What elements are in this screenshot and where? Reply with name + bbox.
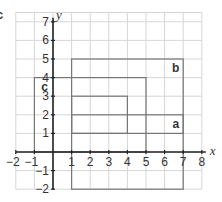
x-axis-label: x: [209, 143, 216, 158]
x-tick-label: 6: [161, 155, 168, 169]
shape-label-b: b: [172, 61, 179, 75]
coordinate-plane: −2−112345678−2−11234567xybca: [0, 0, 222, 202]
shape-label-c: c: [41, 80, 48, 94]
y-tick-label: −2: [35, 182, 49, 196]
y-tick-label: 1: [42, 126, 49, 140]
y-tick-label: −1: [35, 164, 49, 178]
y-tick-label: 2: [42, 108, 49, 122]
x-tick-label: 8: [198, 155, 205, 169]
y-tick-label: 6: [42, 33, 49, 47]
y-axis-label: y: [54, 7, 62, 22]
x-tick-label: −2: [6, 155, 20, 169]
x-tick-label: 2: [87, 155, 94, 169]
coordinate-diagram: c −2−112345678−2−11234567xybca: [0, 0, 222, 202]
axes: −2−112345678−2−11234567xy: [6, 7, 216, 196]
x-tick-label: 5: [143, 155, 150, 169]
y-tick-label: 7: [42, 15, 49, 29]
shape-label-a: a: [172, 117, 179, 131]
x-tick-label: 3: [105, 155, 112, 169]
x-tick-label: 7: [180, 155, 187, 169]
y-tick-label: 5: [42, 52, 49, 66]
x-tick-label: 1: [68, 155, 75, 169]
x-tick-label: 4: [124, 155, 131, 169]
